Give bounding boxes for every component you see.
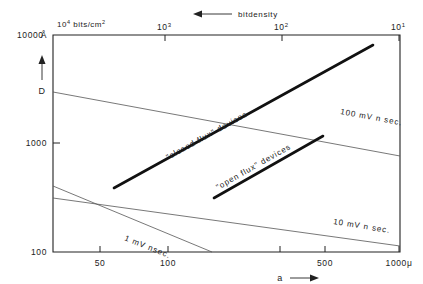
top-tick-label-1: 102: [274, 22, 289, 32]
y-tick-label-10000: 10000: [17, 30, 44, 40]
series-label-100mv-nsec: 100 mV n sec.: [340, 107, 403, 127]
series-label-open-flux-devices: "open flux" devices: [215, 142, 293, 192]
chart-canvas: 103 102 101 104 bits/cm2 bitdensity: [0, 0, 423, 284]
y-axis-title: D: [39, 86, 46, 96]
x-tick-label-1000: 1000μ: [386, 258, 413, 268]
y-unit-angstrom: Å: [41, 30, 47, 40]
bitdensity-arrow: [193, 11, 232, 18]
top-axis-tick-labels: 103 102 101: [157, 22, 406, 32]
y-tick-label-100: 100: [31, 247, 47, 257]
x-axis-title-arrow: [290, 275, 319, 282]
series-label-closed-flux-devices: "closed flux" devices: [165, 110, 250, 162]
top-tick-label-0: 103: [157, 22, 172, 32]
x-axis-tick-labels: 50 100 500 1000μ: [95, 258, 413, 268]
series-open-flux-devices: "open flux" devices: [214, 136, 323, 198]
top-axis-ticks: [165, 35, 399, 41]
y-tick-label-1000: 1000: [26, 138, 47, 148]
y-axis-tick-labels: 10000 Å 1000 100: [17, 30, 47, 257]
series-label-1mv-nsec: 1 mV nsec.: [123, 234, 172, 261]
chart-figure: 103 102 101 104 bits/cm2 bitdensity: [0, 0, 423, 284]
x-axis-title: a: [277, 273, 283, 283]
bitdensity-label: bitdensity: [238, 10, 278, 19]
series-10mv-nsec: 10 mV n sec.: [53, 198, 400, 246]
y-axis-title-arrow: [39, 55, 46, 80]
series-label-10mv-nsec: 10 mV n sec.: [333, 217, 391, 235]
x-tick-label-500: 500: [317, 258, 333, 268]
top-tick-label-2: 101: [391, 22, 406, 32]
bitdensity-unit-label: 104 bits/cm2: [57, 19, 106, 30]
svg-text:104 bits/cm2: 104 bits/cm2: [57, 19, 106, 30]
series-1mv-nsec: 1 mV nsec.: [53, 186, 212, 260]
x-tick-label-50: 50: [95, 258, 106, 268]
